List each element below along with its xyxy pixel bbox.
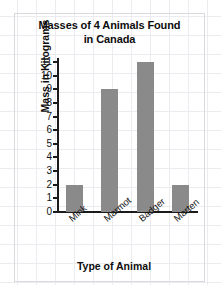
plot-area: 11109876543210 <box>57 62 198 212</box>
y-axis-tick-label: 5 <box>46 139 52 149</box>
y-axis-tick-label: 2 <box>46 180 52 190</box>
y-axis-tick-label: 9 <box>46 84 52 94</box>
y-axis-tick-label: 11 <box>42 57 52 67</box>
y-axis-tick-label: 7 <box>46 112 52 122</box>
bar-marmot <box>101 89 118 212</box>
y-axis-tick-label: 3 <box>46 166 52 176</box>
chart-title-line-1: Masses of 4 Animals Found <box>39 19 181 31</box>
y-axis-tick-label: 1 <box>46 193 52 203</box>
y-axis-tick-label: 4 <box>46 152 52 162</box>
x-axis-title: Type of Animal <box>34 260 194 272</box>
bar-badger <box>137 62 154 212</box>
y-axis-tick-label: 6 <box>46 125 52 135</box>
bar-group <box>57 62 198 212</box>
y-axis-tick-label: 0 <box>46 207 52 217</box>
y-axis-tick-label: 10 <box>41 71 52 81</box>
y-axis-tick-label: 8 <box>46 98 52 108</box>
bar-chart-screenshot: Masses of 4 Animals Found in Canada Mass… <box>0 0 221 297</box>
